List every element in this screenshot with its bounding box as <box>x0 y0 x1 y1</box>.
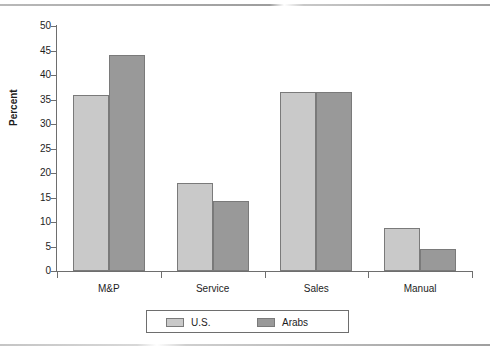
y-axis-tick-label-wrap: 15 <box>20 193 51 203</box>
bar-m-p-u-s- <box>73 95 109 271</box>
y-axis-tick-label: 45 <box>29 46 51 56</box>
y-axis-tick-label-wrap: 5 <box>20 242 51 252</box>
legend-swatch-icon <box>257 318 275 327</box>
legend-label: Arabs <box>282 317 308 328</box>
chart-legend: U.S.Arabs <box>146 310 349 333</box>
legend-item-u-s-: U.S. <box>166 316 210 328</box>
bar-manual-arabs <box>420 249 456 271</box>
x-axis-tick <box>368 272 369 278</box>
x-axis-label-m-p: M&P <box>57 283 161 295</box>
x-axis-tick <box>57 272 58 278</box>
y-axis-tick-label-wrap: 30 <box>20 119 51 129</box>
bar-sales-arabs <box>316 92 352 271</box>
bar-manual-u-s- <box>384 228 420 271</box>
y-axis-tick-label: 10 <box>29 217 51 227</box>
y-axis-tick-label: 35 <box>29 95 51 105</box>
x-axis-tick <box>472 272 473 278</box>
y-axis-tick-label: 5 <box>29 242 51 252</box>
y-axis-tick-label: 20 <box>29 168 51 178</box>
y-axis-tick-label-wrap: 20 <box>20 168 51 178</box>
y-axis-tick-label-wrap: 25 <box>20 144 51 154</box>
y-axis-tick-label-wrap: 10 <box>20 217 51 227</box>
page-scan-edge-bottom <box>0 344 490 346</box>
y-axis-tick-label-wrap: 0 <box>20 266 51 276</box>
bar-service-arabs <box>213 201 249 271</box>
x-axis-tick <box>265 272 266 278</box>
y-axis-tick-label: 15 <box>29 193 51 203</box>
y-axis-tick-label: 0 <box>29 266 51 276</box>
x-axis-label-manual: Manual <box>368 283 472 295</box>
y-axis-tick-label-wrap: 35 <box>20 95 51 105</box>
bar-sales-u-s- <box>280 92 316 271</box>
y-axis-tick-label-wrap: 40 <box>20 70 51 80</box>
y-axis-tick-label: 30 <box>29 119 51 129</box>
chart-page: Percent 05101520253035404550 M&PServiceS… <box>0 0 490 351</box>
legend-swatch-icon <box>166 318 184 327</box>
x-axis-tick <box>161 272 162 278</box>
y-axis-tick-label: 40 <box>29 70 51 80</box>
y-axis-tick-label: 50 <box>29 21 51 31</box>
y-axis-tick-label: 25 <box>29 144 51 154</box>
bar-m-p-arabs <box>109 55 145 271</box>
legend-label: U.S. <box>191 317 210 328</box>
y-axis-tick-label-wrap: 50 <box>20 21 51 31</box>
plot-area <box>57 26 472 271</box>
x-axis-label-sales: Sales <box>265 283 369 295</box>
page-scan-edge-top <box>0 4 490 6</box>
y-axis-tick-label-wrap: 45 <box>20 46 51 56</box>
x-axis-label-service: Service <box>161 283 265 295</box>
bar-service-u-s- <box>177 183 213 271</box>
legend-item-arabs: Arabs <box>257 316 308 328</box>
y-axis-title: Percent <box>8 89 19 126</box>
